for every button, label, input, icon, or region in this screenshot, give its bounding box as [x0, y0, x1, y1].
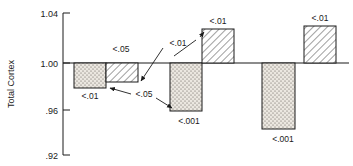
- y-axis-tick-label-096: .96: [45, 106, 58, 116]
- bar-chart: 1.04 1.00 .96 .92 Total Cortex: [0, 0, 353, 166]
- p-label-bar6: <.01: [312, 13, 329, 23]
- p-label-arrow-upper: <.01: [170, 38, 187, 48]
- bar-3-dotted: [170, 63, 202, 111]
- y-axis-tick-label-092: .92: [45, 151, 58, 161]
- p-label-bar3: <.001: [178, 116, 200, 126]
- p-label-bar5: <.001: [272, 134, 294, 144]
- bar-2-hatched: [106, 63, 138, 82]
- bar-1-dotted: [74, 63, 106, 88]
- y-axis-tick-label-100: 1.00: [40, 59, 58, 69]
- bar-5-dotted: [262, 63, 295, 129]
- bar-6-hatched: [304, 26, 336, 63]
- y-axis-title: Total Cortex: [6, 59, 16, 108]
- y-axis-tick-label-104: 1.04: [40, 9, 58, 19]
- chart-container: 1.04 1.00 .96 .92 Total Cortex: [0, 0, 353, 166]
- bar-4-hatched: [202, 29, 234, 63]
- p-label-bar1: <.01: [82, 91, 99, 101]
- p-label-arrow-lower: <.05: [136, 89, 153, 99]
- p-label-bar4: <.01: [210, 16, 227, 26]
- p-label-bar2: <.05: [113, 44, 130, 54]
